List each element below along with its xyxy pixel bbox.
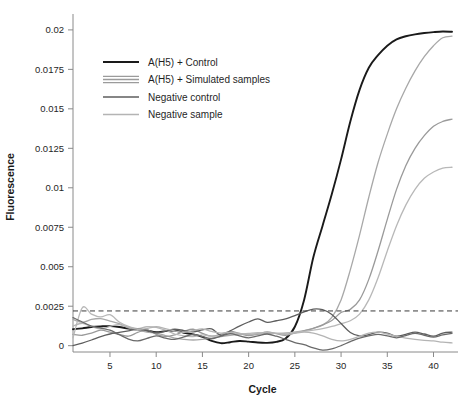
y-tick-label: 0.02 xyxy=(46,24,65,35)
y-axis: 00.00250.0050.00750.010.01250.0150.01750… xyxy=(35,14,73,352)
x-tick-label: 35 xyxy=(382,360,393,371)
y-tick-label: 0.0175 xyxy=(35,64,64,75)
chart-legend: A(H5) + ControlA(H5) + Simulated samples… xyxy=(103,57,270,121)
x-tick-label: 15 xyxy=(197,360,208,371)
qpcr-amplification-chart: 00.00250.0050.00750.010.01250.0150.01750… xyxy=(0,0,461,401)
x-axis-ticks: 510152025303540 xyxy=(107,352,438,371)
y-tick-label: 0 xyxy=(59,340,64,351)
legend-label: A(H5) + Simulated samples xyxy=(148,74,270,85)
y-tick-label: 0.0025 xyxy=(35,301,64,312)
y-tick-label: 0.0125 xyxy=(35,143,64,154)
x-tick-label: 40 xyxy=(428,360,439,371)
x-tick-label: 10 xyxy=(151,360,162,371)
x-axis: 510152025303540 xyxy=(73,352,458,371)
legend-label: A(H5) + Control xyxy=(148,57,218,68)
y-tick-label: 0.015 xyxy=(40,103,64,114)
x-tick-label: 25 xyxy=(290,360,301,371)
x-tick-label: 20 xyxy=(243,360,254,371)
y-tick-label: 0.0075 xyxy=(35,222,64,233)
x-axis-title: Cycle xyxy=(248,383,276,395)
y-tick-label: 0.01 xyxy=(46,182,65,193)
legend-label: Negative control xyxy=(148,92,220,103)
plot-canvas: 00.00250.0050.00750.010.01250.0150.01750… xyxy=(0,0,461,401)
x-tick-label: 5 xyxy=(107,360,112,371)
legend-label: Negative sample xyxy=(148,109,223,120)
y-axis-title: Fluorescence xyxy=(4,153,16,221)
y-axis-ticks: 00.00250.0050.00750.010.01250.0150.01750… xyxy=(35,24,73,351)
x-tick-label: 30 xyxy=(336,360,347,371)
y-tick-label: 0.005 xyxy=(40,261,64,272)
